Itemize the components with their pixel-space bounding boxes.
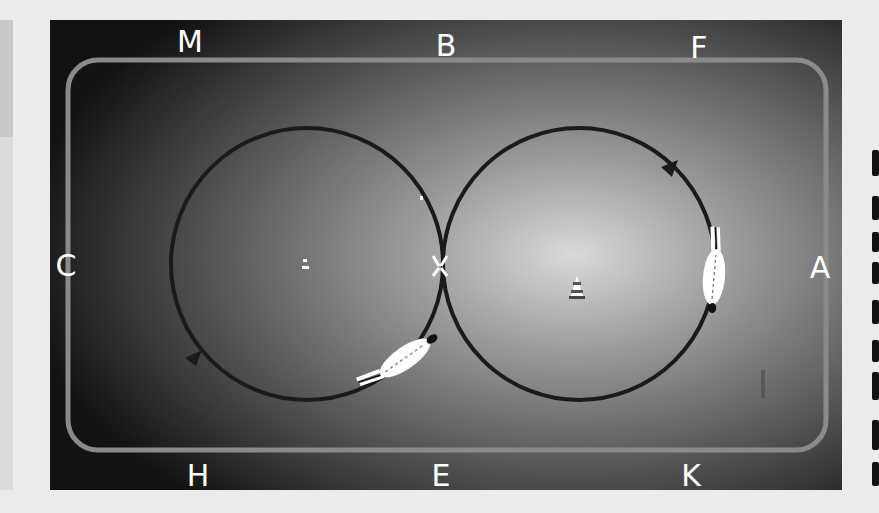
arena-diagram: M B F H E K C A [50, 20, 842, 490]
letter-c: C [56, 248, 77, 283]
letter-k: K [681, 458, 702, 490]
page-edge-left [0, 20, 13, 490]
letter-b: B [436, 28, 457, 63]
circle-tick-mark [420, 196, 423, 200]
letter-h: H [187, 458, 210, 490]
page-tab [0, 20, 13, 137]
letter-e: E [432, 458, 451, 490]
letter-m: M [177, 24, 203, 59]
letter-a: A [810, 250, 831, 285]
letter-f: F [690, 30, 707, 65]
arena-background [50, 20, 842, 490]
arena-svg: M B F H E K C A [50, 20, 842, 490]
smudge-mark [761, 370, 765, 398]
